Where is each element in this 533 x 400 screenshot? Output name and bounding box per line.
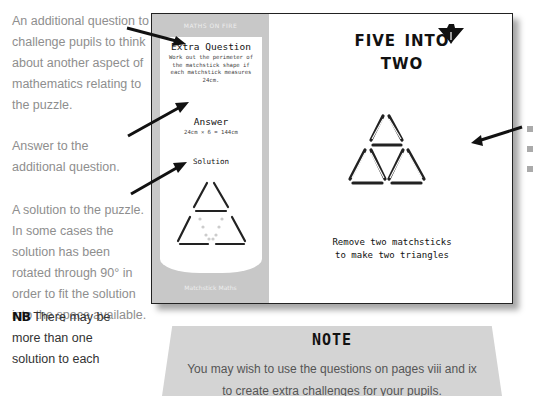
puzzle-title: Five into two xyxy=(302,28,502,74)
solution-title: Solution xyxy=(160,157,262,166)
note-box: NOTE You may wish to use the questions o… xyxy=(162,326,502,396)
extra-question-title: Extra Question xyxy=(160,41,262,52)
title-line-2: two xyxy=(302,51,502,74)
sidebar-card: Extra Question Work out the perimeter of… xyxy=(160,37,262,273)
answer-text: 24cm × 6 = 144cm xyxy=(164,129,258,137)
page-sidebar: MATHS ON FIRE Extra Question Work out th… xyxy=(152,14,269,303)
annotation-nb: NB There may be more than one solution t… xyxy=(12,306,150,370)
instruction-line-1: Remove two matchsticks xyxy=(277,236,507,249)
annotation-answer: Answer to the additional question. xyxy=(12,136,142,178)
sample-page: MATHS ON FIRE Extra Question Work out th… xyxy=(151,13,513,304)
puzzle-instructions: Remove two matchsticks to make two trian… xyxy=(277,236,507,262)
nb-line-2: more than one xyxy=(12,328,150,349)
solution-diagram-icon xyxy=(174,177,250,249)
nb-line-1: There may be xyxy=(33,310,110,324)
instruction-line-2: to make two triangles xyxy=(277,249,507,262)
sidebar-header: MATHS ON FIRE xyxy=(152,22,269,29)
extra-question-text: Work out the perimeter of the matchstick… xyxy=(164,54,258,84)
annotation-extra-question: An additional question to challenge pupi… xyxy=(12,11,150,116)
offscreen-text-fragment xyxy=(527,166,533,172)
sidebar-footer: Matchstick Maths xyxy=(152,284,269,291)
matchstick-puzzle-diagram xyxy=(342,112,432,196)
title-line-1: Five into xyxy=(302,28,502,51)
match-logo-icon xyxy=(438,24,464,44)
note-line-2: to create extra challenges for your pupi… xyxy=(162,380,502,400)
note-title: NOTE xyxy=(162,331,502,349)
offscreen-text-fragment xyxy=(527,126,533,132)
note-line-1: You may wish to use the questions on pag… xyxy=(162,358,502,380)
nb-label: NB xyxy=(12,309,30,324)
offscreen-text-fragment xyxy=(527,146,533,152)
nb-line-3: solution to each xyxy=(12,349,150,370)
note-text: You may wish to use the questions on pag… xyxy=(162,358,502,400)
answer-title: Answer xyxy=(160,116,262,127)
